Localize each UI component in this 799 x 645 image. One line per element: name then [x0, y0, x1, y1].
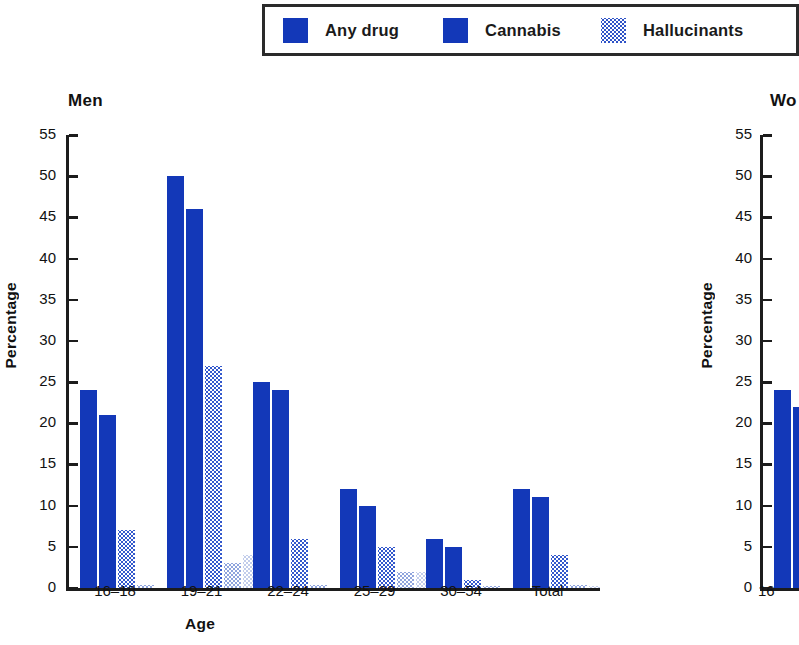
- bar: [774, 390, 791, 588]
- x-tick-label: 22–24: [243, 582, 333, 599]
- chart-page: Any drugCannabisHallucinants Men Percent…: [0, 0, 799, 645]
- bar: [186, 209, 203, 588]
- bar: [272, 390, 289, 588]
- chart-panel-women: Wo Percentage 0510152025303540455055 16: [600, 86, 799, 645]
- bar: [99, 415, 116, 588]
- x-tick-label: 16: [758, 582, 799, 599]
- x-tick-label: 16–18: [70, 582, 160, 599]
- chart-panel-men: Men Percentage 0510152025303540455055 16…: [0, 86, 600, 645]
- x-axis-label-men: Age: [185, 615, 215, 633]
- x-tick-label: Total: [503, 582, 593, 599]
- chart-legend: Any drugCannabisHallucinants: [262, 4, 799, 56]
- bar: [532, 497, 549, 588]
- bar: [205, 366, 222, 588]
- legend-item-1[interactable]: Cannabis: [443, 18, 561, 43]
- solid-blue-swatch: [443, 18, 468, 43]
- panel-title-men: Men: [68, 91, 103, 111]
- x-tick-label: 30–54: [416, 582, 506, 599]
- bar: [426, 539, 443, 588]
- legend-item-2[interactable]: Hallucinants: [601, 18, 744, 43]
- dotted-blue-swatch: [601, 18, 626, 43]
- legend-item-0[interactable]: Any drug: [283, 18, 399, 43]
- bar: [340, 489, 357, 588]
- legend-label: Hallucinants: [643, 21, 744, 40]
- legend-label: Any drug: [325, 21, 399, 40]
- x-tick-label: 25–29: [330, 582, 420, 599]
- bar: [291, 539, 308, 588]
- bar: [118, 530, 135, 588]
- bar: [80, 390, 97, 588]
- bar: [793, 407, 799, 588]
- solid-blue-swatch: [283, 18, 308, 43]
- legend-label: Cannabis: [485, 21, 561, 40]
- bar: [167, 176, 184, 588]
- x-tick-label: 19–21: [157, 582, 247, 599]
- plot-area-women: [600, 135, 799, 588]
- bar: [513, 489, 530, 588]
- bar: [359, 506, 376, 588]
- bar: [253, 382, 270, 588]
- plot-area-men: [0, 135, 600, 588]
- panel-title-women: Wo: [770, 91, 797, 111]
